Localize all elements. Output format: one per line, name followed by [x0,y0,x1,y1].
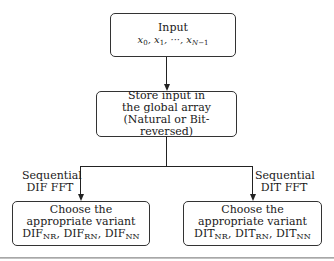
dif-variants: DIFNR, DIFRN, DIFNN [22,228,140,243]
arrowhead-icon [78,194,84,201]
edge-label-dif: Sequential DIF FFT [22,170,78,194]
input-sequence: x0, x1, ···, xN−1 [138,34,209,49]
edge-right-branch [252,166,253,194]
dit-variants: DITNR, DITRN, DITNN [194,228,311,243]
edge-horizontal-split [80,166,253,167]
dit-node: Choose the appropriate variant DITNR, DI… [183,201,322,246]
edge-store-split [166,137,167,167]
arrowhead-icon [250,194,256,201]
store-node: Store input in the global array (Natural… [96,91,237,137]
input-node: Input x0, x1, ···, xN−1 [110,13,236,57]
input-title: Input [158,22,188,34]
dif-node: Choose the appropriate variant DIFNR, DI… [12,201,150,246]
bottom-rule [0,257,334,259]
edge-input-store [166,57,167,84]
store-line-3: (Natural or Bit-reversed) [97,114,236,138]
edge-label-dit: Sequential DIT FFT [255,170,313,194]
